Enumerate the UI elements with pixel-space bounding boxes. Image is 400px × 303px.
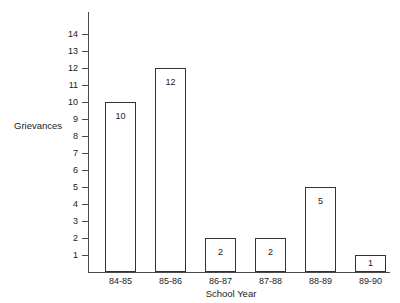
y-axis-tick <box>82 170 88 171</box>
y-axis-tick-label: 12 <box>38 64 78 73</box>
x-axis-line <box>88 272 390 273</box>
y-axis-tick <box>82 51 88 52</box>
y-axis-tick <box>82 255 88 256</box>
y-axis-tick-label: 11 <box>38 81 78 90</box>
x-axis-tick-label: 86-87 <box>194 276 248 286</box>
y-axis-tick-label: 5 <box>38 183 78 192</box>
bar-value-label: 1 <box>356 259 385 268</box>
y-axis-tick <box>82 238 88 239</box>
bar-chart: 1413121110987654321 10122251 84-8585-868… <box>0 0 400 303</box>
x-axis-title: School Year <box>0 288 400 299</box>
bar-value-label: 10 <box>106 112 135 121</box>
y-axis-tick-label: 4 <box>38 200 78 209</box>
bar-value-label: 12 <box>156 78 185 87</box>
y-axis-tick <box>82 119 88 120</box>
x-axis-tick-label: 84-85 <box>94 276 148 286</box>
x-axis-tick-label: 85-86 <box>144 276 198 286</box>
y-axis-tick-label: 14 <box>38 30 78 39</box>
y-axis-title: Grievances <box>14 120 62 131</box>
bar[interactable]: 2 <box>255 238 286 272</box>
y-axis-tick <box>82 153 88 154</box>
bar-value-label: 2 <box>256 248 285 257</box>
y-axis-tick-label: 8 <box>38 132 78 141</box>
y-axis-tick <box>82 85 88 86</box>
y-axis-tick <box>82 204 88 205</box>
y-axis-tick-label: 1 <box>38 251 78 260</box>
y-axis-tick <box>82 187 88 188</box>
x-axis-tick-label: 88-89 <box>294 276 348 286</box>
bar-value-label: 5 <box>306 197 335 206</box>
bar-value-label: 2 <box>206 248 235 257</box>
y-axis-tick-label: 6 <box>38 166 78 175</box>
y-axis-tick-label: 7 <box>38 149 78 158</box>
y-axis-tick-label: 13 <box>38 47 78 56</box>
x-axis-tick-label: 87-88 <box>244 276 298 286</box>
y-axis-tick <box>82 34 88 35</box>
y-axis-tick <box>82 68 88 69</box>
x-axis-tick-label: 89-90 <box>344 276 398 286</box>
bar[interactable]: 2 <box>205 238 236 272</box>
bar[interactable]: 10 <box>105 102 136 272</box>
y-axis-line <box>88 12 89 273</box>
bar[interactable]: 5 <box>305 187 336 272</box>
y-axis-tick-label: 2 <box>38 234 78 243</box>
y-axis-tick-label: 3 <box>38 217 78 226</box>
y-axis-tick <box>82 221 88 222</box>
y-axis-tick <box>82 102 88 103</box>
y-axis-tick-label: 10 <box>38 98 78 107</box>
y-axis-tick <box>82 136 88 137</box>
bar[interactable]: 12 <box>155 68 186 272</box>
bar[interactable]: 1 <box>355 255 386 272</box>
